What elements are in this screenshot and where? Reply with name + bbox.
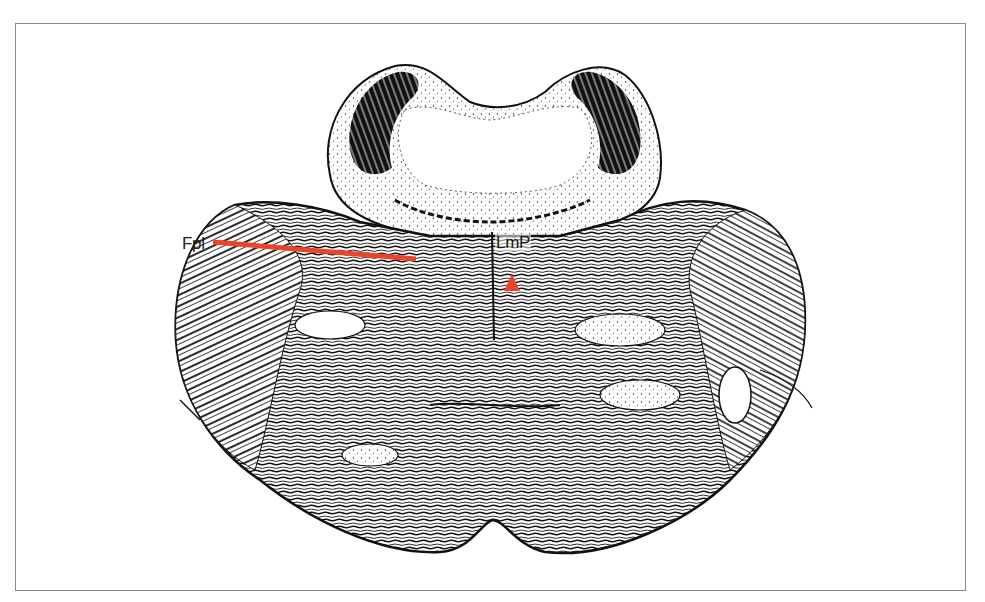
tegmentum-dorsal-region [328, 65, 661, 236]
lmp-label: LmP [495, 234, 531, 251]
basilar-pons-region [176, 201, 812, 553]
pons-cross-section-illustration [0, 0, 985, 602]
fpl-label: Fpl [182, 235, 205, 252]
